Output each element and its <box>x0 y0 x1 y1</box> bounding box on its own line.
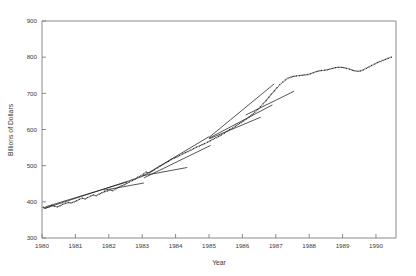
series-interp-dot <box>278 86 279 87</box>
series-interp-dot <box>350 69 351 70</box>
series-interp-dot <box>303 75 304 76</box>
series-interp-dot <box>250 115 251 116</box>
series-data-point <box>285 79 286 80</box>
series-interp-dot <box>58 206 59 207</box>
series-data-point <box>391 57 392 58</box>
series-interp-dot <box>153 170 154 171</box>
series-data-point <box>341 67 342 68</box>
series-data-point <box>329 68 330 69</box>
series-data-point <box>95 195 96 196</box>
x-tick-label: 1983 <box>135 242 149 249</box>
series-interp-dot <box>50 206 51 207</box>
series-data-point <box>274 90 275 91</box>
series-data-point <box>107 190 108 191</box>
series-interp-dot <box>375 63 376 64</box>
series-data-point <box>68 202 69 203</box>
segment-1985-1986c <box>209 117 261 139</box>
series-data-point <box>212 139 213 140</box>
series-data-point <box>51 205 52 206</box>
series-interp-dot <box>200 145 201 146</box>
series-data-point <box>237 124 238 125</box>
series-interp-dot <box>211 139 212 140</box>
series-interp-dot <box>75 201 76 202</box>
series-interp-dot <box>370 66 371 67</box>
series-interp-dot <box>364 69 365 70</box>
series-interp-dot <box>108 190 109 191</box>
series-data-point <box>93 194 94 195</box>
trend-line-group <box>44 84 294 209</box>
series-data-point <box>221 134 222 135</box>
series-data-point <box>104 191 105 192</box>
series-interp-dot <box>175 157 176 158</box>
series-interp-dot <box>386 58 387 59</box>
series-interp-dot <box>300 75 301 76</box>
series-data-point <box>143 173 144 174</box>
series-interp-dot <box>334 68 335 69</box>
series-interp-dot <box>356 71 357 72</box>
segment-1983-1984c <box>142 167 187 175</box>
series-interp-dot <box>281 83 282 84</box>
series-data-point <box>246 118 247 119</box>
series-interp-dot <box>286 79 287 80</box>
x-tick-label: 1986 <box>235 242 249 249</box>
series-data-point <box>243 120 244 121</box>
y-tick-label: 500 <box>27 162 38 169</box>
series-interp-dot <box>289 77 290 78</box>
series-interp-dot <box>97 194 98 195</box>
series-interp-dot <box>111 190 112 191</box>
series-data-point <box>254 111 255 112</box>
series-interp-dot <box>197 146 198 147</box>
x-tick-label: 1984 <box>169 242 183 249</box>
series-data-point <box>76 200 77 201</box>
series-data-point <box>215 137 216 138</box>
series-interp-dot <box>78 200 79 201</box>
x-tick-label: 1981 <box>69 242 83 249</box>
series-data-point <box>226 131 227 132</box>
series-data-point <box>271 93 272 94</box>
series-interp-dot <box>228 130 229 131</box>
series-interp-dot <box>183 153 184 154</box>
x-axis-ticks <box>42 234 376 238</box>
series-interp-dot <box>239 123 240 124</box>
series-data-point <box>304 74 305 75</box>
series-data-point <box>165 162 166 163</box>
series-interp-dot <box>373 64 374 65</box>
series-interp-dot <box>67 202 68 203</box>
series-interp-dot <box>44 207 45 208</box>
series-data-point <box>176 156 177 157</box>
y-axis-tick-labels: 300400500600700800900 <box>27 17 38 241</box>
series-data-point <box>346 68 347 69</box>
series-data-point <box>65 203 66 204</box>
series-interp-dot <box>181 154 182 155</box>
series-data-point <box>162 164 163 165</box>
series-data-point <box>368 66 369 67</box>
series-data-point <box>73 201 74 202</box>
series-data-point <box>84 198 85 199</box>
series-interp-dot <box>94 195 95 196</box>
series-interp-dot <box>203 144 204 145</box>
x-tick-label: 1990 <box>369 242 383 249</box>
series-interp-dot <box>267 98 268 99</box>
series-data-point <box>354 70 355 71</box>
series-data-point <box>137 177 138 178</box>
series-data-point <box>187 151 188 152</box>
series-interp-dot <box>292 76 293 77</box>
series-interp-dot <box>314 72 315 73</box>
series-interp-dot <box>53 205 54 206</box>
series-data-point <box>204 143 205 144</box>
series-interp-dot <box>234 127 235 128</box>
series-interp-dot <box>156 168 157 169</box>
series-interp-dot <box>105 191 106 192</box>
series-interp-dot <box>269 96 270 97</box>
segment-1982-1983 <box>104 183 144 190</box>
series-interp-dot <box>64 203 65 204</box>
series-data-point <box>160 165 161 166</box>
series-interp-dot <box>61 205 62 206</box>
series-data-point <box>210 140 211 141</box>
series-data-point <box>168 161 169 162</box>
series-data-point <box>279 84 280 85</box>
series-interp-dot <box>142 174 143 175</box>
series-interp-dot <box>378 62 379 63</box>
series-interp-dot <box>131 181 132 182</box>
series-data-point <box>332 68 333 69</box>
